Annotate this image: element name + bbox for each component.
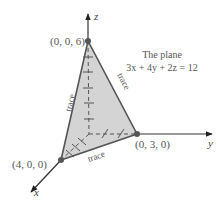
label-x-intercept: (4, 0, 0) (12, 158, 47, 171)
plane-title: The plane (142, 49, 182, 60)
point-x-intercept (58, 157, 64, 163)
label-y-intercept: (0, 3, 0) (135, 138, 170, 151)
point-y-intercept (134, 131, 140, 137)
y-axis-label: y (207, 137, 213, 149)
z-axis-label: z (93, 10, 99, 22)
point-z-intercept (85, 38, 91, 44)
plane-equation: 3x + 4y + 2z = 12 (126, 62, 197, 73)
x-axis-label: x (33, 186, 39, 198)
label-z-intercept: (0, 0, 6) (50, 35, 85, 48)
trace-label-yz: trace (115, 71, 132, 91)
plane-diagram: z y x (0, 0, 6) (4, 0, 0) (0, 3, 0) The … (0, 0, 223, 206)
